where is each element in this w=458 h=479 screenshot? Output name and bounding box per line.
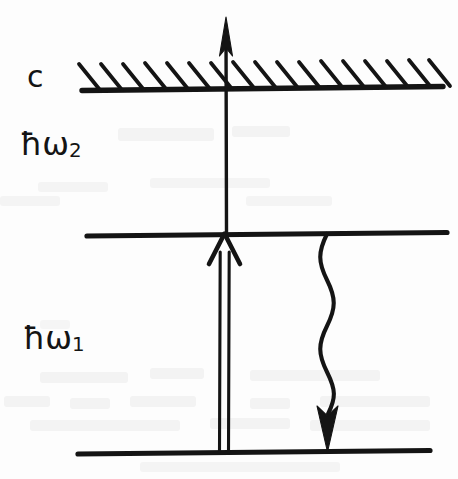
paper-bleed-layer [0,126,430,472]
ground-level [78,451,430,455]
absorption-arrow-shaft-left [220,252,221,452]
continuum-level [79,60,450,91]
emission-wave-shaft [320,234,334,414]
absorption-arrowhead-left [209,234,224,264]
diagram-canvas [0,0,458,479]
intermediate-level [87,233,447,237]
absorption-arrowhead-right [225,234,240,264]
spontaneous-emission-arrow [317,234,338,452]
intermediate-level-line [87,233,447,237]
absorption-arrow-shaft-right [229,252,230,452]
ionization-arrow-shaft [226,30,227,232]
ground-level-line [78,451,430,455]
continuum-level-line [82,87,443,91]
energy-level-diagram: c ħω2 ħω1 [0,0,458,479]
ionization-arrow [220,17,233,232]
